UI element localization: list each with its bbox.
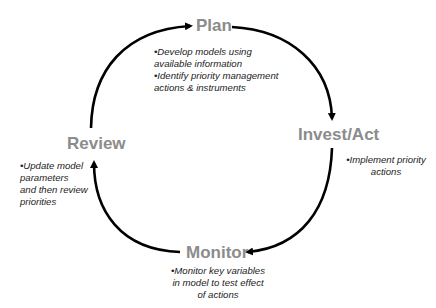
stage-desc-plan: •Develop models using available informat… bbox=[154, 46, 278, 94]
plan-bullet-line: •Develop models using bbox=[154, 46, 278, 58]
plan-bullet-line: available information bbox=[154, 58, 278, 70]
stage-label-plan: Plan bbox=[196, 17, 232, 34]
review-bullet-line: •Update model bbox=[20, 160, 88, 172]
stage-label-invest-act: Invest/Act bbox=[298, 126, 379, 143]
invest-bullet-line: actions bbox=[336, 166, 436, 178]
stage-label-monitor: Monitor bbox=[186, 244, 248, 261]
invest-bullet-line: •Implement priority bbox=[336, 154, 436, 166]
monitor-bullet-line: in model to test effect bbox=[160, 277, 276, 289]
review-bullet-line: parameters bbox=[20, 172, 88, 184]
stage-desc-invest-act: •Implement priority actions bbox=[336, 154, 436, 178]
arrow-invest-to-monitor bbox=[248, 148, 332, 252]
plan-bullet-line: •Identify priority management bbox=[154, 70, 278, 82]
review-bullet-line: priorities bbox=[20, 196, 88, 208]
stage-desc-review: •Update model parameters and then review… bbox=[20, 160, 88, 208]
monitor-bullet-line: •Monitor key variables bbox=[160, 265, 276, 277]
plan-bullet-line: actions & instruments bbox=[154, 82, 278, 94]
stage-label-review: Review bbox=[67, 135, 126, 152]
review-bullet-line: and then review bbox=[20, 184, 88, 196]
stage-desc-monitor: •Monitor key variables in model to test … bbox=[160, 265, 276, 301]
arrow-monitor-to-review bbox=[94, 163, 180, 252]
monitor-bullet-line: of actions bbox=[160, 289, 276, 301]
